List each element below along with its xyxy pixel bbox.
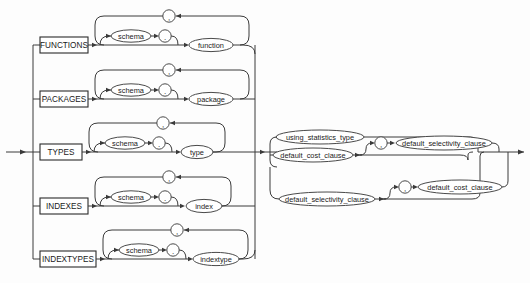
punct-dot-label-indextypes: .	[172, 247, 174, 256]
punct-comma-label-cost-clause: ,	[380, 140, 382, 149]
nonterminal-label-schema-types: schema	[112, 139, 139, 148]
indexes-branch: INDEXES schema . index ,	[40, 171, 243, 214]
nonterminal-label-default-cost-clause: default_cost_clause	[280, 151, 345, 160]
nonterminal-label-default-cost-clause-bottom: default_cost_clause	[427, 183, 492, 192]
nonterminal-label-type: type	[190, 148, 204, 157]
nonterminal-label-indextype: indextype	[200, 255, 232, 264]
keyword-label-indextypes: INDEXTYPES	[42, 255, 94, 264]
exit-arrow	[508, 149, 524, 154]
keyword-label-indexes: INDEXES	[46, 202, 82, 211]
branch-merge-spine	[243, 45, 265, 259]
entry-arrow	[6, 149, 26, 154]
packages-branch: PACKAGES schema . package ,	[40, 64, 249, 107]
nonterminal-label-using-statistics-type: using_statistics_type	[286, 133, 354, 142]
statistics-alternatives-group: using_statistics_type default_cost_claus…	[265, 130, 508, 206]
types-branch: TYPES schema . type ,	[40, 117, 243, 160]
alt-default-selectivity-clause: default_selectivity_clause , default_cos…	[279, 160, 508, 206]
nonterminal-label-schema-indextypes: schema	[126, 246, 153, 255]
nonterminal-label-schema-packages: schema	[118, 86, 145, 95]
nonterminal-label-function: function	[198, 41, 224, 50]
railroad-diagram-canvas: FUNCTIONS schema . function	[0, 0, 530, 283]
nonterminal-label-default-selectivity-clause-bottom: default_selectivity_clause	[285, 195, 369, 204]
punct-dot-label-packages: .	[164, 87, 166, 96]
punct-dot-label-functions: .	[164, 33, 166, 42]
nonterminal-label-default-selectivity-clause-top: default_selectivity_clause	[402, 139, 486, 148]
left-branch-spine	[26, 45, 40, 259]
punct-dot-label-indexes: .	[164, 194, 166, 203]
keyword-label-functions: FUNCTIONS	[40, 41, 88, 50]
nonterminal-label-package: package	[197, 95, 225, 104]
punct-comma-label-functions: ,	[168, 13, 170, 22]
indextypes-branch: INDEXTYPES schema . indextype ,	[40, 224, 248, 267]
punct-dot-label-types: .	[158, 140, 160, 149]
punct-comma-label-types: ,	[162, 120, 164, 129]
railroad-diagram-svg: FUNCTIONS schema . function	[0, 0, 530, 283]
punct-comma-label-selectivity-clause: ,	[404, 184, 406, 193]
nonterminal-label-schema-functions: schema	[118, 32, 145, 41]
keyword-label-packages: PACKAGES	[42, 95, 87, 104]
punct-comma-label-packages: ,	[168, 67, 170, 76]
nonterminal-label-index: index	[195, 202, 213, 211]
functions-branch: FUNCTIONS schema . function	[40, 10, 249, 53]
punct-comma-label-indexes: ,	[168, 174, 170, 183]
nonterminal-label-schema-indexes: schema	[118, 193, 145, 202]
punct-comma-label-indextypes: ,	[176, 227, 178, 236]
keyword-label-types: TYPES	[48, 148, 75, 157]
